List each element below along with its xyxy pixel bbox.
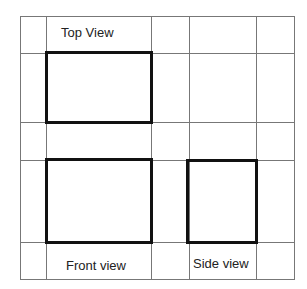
front-view-rectangle (45, 158, 153, 244)
grid-line-vertical (20, 16, 21, 279)
top-view-label: Top View (61, 25, 114, 40)
side-view-rectangle (186, 159, 258, 244)
side-view-label: Side view (193, 256, 249, 271)
front-view-label: Front view (66, 258, 126, 273)
grid-line-horizontal (20, 279, 294, 280)
grid-line-horizontal (20, 16, 294, 17)
grid-line-vertical (294, 16, 295, 280)
diagram-canvas: Top View Front view Side view (0, 0, 307, 289)
top-view-rectangle (45, 51, 153, 124)
